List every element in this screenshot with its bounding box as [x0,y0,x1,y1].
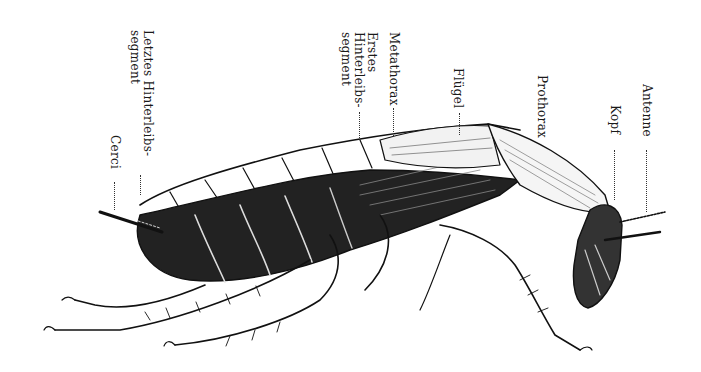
label-letztes-hinterleibssegment: Letztes Hinterleibs- segment [128,30,154,156]
leader-kopf [614,150,615,200]
label-erstes-hinterleibssegment: Erstes Hinterleibs- segment [339,32,378,108]
label-cerci: Cerci [108,135,121,169]
label-prothorax: Prothorax [535,75,548,138]
label-kopf: Kopf [608,105,621,134]
label-fluegel: Flügel [451,68,464,108]
leader-cerci [114,182,115,210]
leader-antenne [646,150,647,212]
leader-erstes-segment [359,112,360,138]
leader-fluegel [459,113,460,135]
label-metathorax: Metathorax [387,32,400,106]
leader-metathorax [393,108,394,136]
anatomy-figure: Letztes Hinterleibs- segment Cerci Metat… [0,0,701,372]
leader-letztes-segment [140,175,141,195]
label-antenne: Antenne [640,84,653,137]
